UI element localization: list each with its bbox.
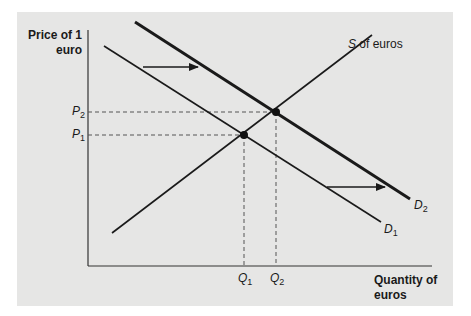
x-axis-label: Quantity of euros (374, 273, 437, 303)
supply-label-var: S (348, 37, 356, 51)
d1-sub: 1 (393, 228, 398, 238)
p1-var: P (72, 127, 80, 141)
quantity-label-q1: Q1 (238, 271, 252, 290)
q2-sub: 2 (279, 277, 284, 287)
y-axis-label: Price of 1 euro (32, 28, 82, 58)
y-axis-label-line2: euro (32, 43, 82, 58)
supply-label: S of euros (348, 37, 403, 52)
x-axis-label-line2: euros (374, 288, 437, 303)
x-axis-label-line1: Quantity of (374, 273, 437, 288)
y-axis-label-line1: Price of 1 (22, 28, 82, 43)
p1-sub: 1 (80, 133, 85, 143)
equilibrium-point-1 (240, 131, 248, 139)
p2-sub: 2 (80, 110, 85, 120)
q2-var: Q (270, 271, 279, 285)
q1-var: Q (238, 271, 247, 285)
d2-var: D (414, 198, 423, 212)
equilibrium-point-2 (272, 108, 280, 116)
price-label-p1: P1 (72, 127, 85, 146)
price-label-p2: P2 (72, 104, 85, 123)
d1-var: D (384, 222, 393, 236)
p2-var: P (72, 104, 80, 118)
demand-label-d2: D2 (414, 198, 428, 217)
quantity-label-q2: Q2 (270, 271, 284, 290)
supply-label-rest: of euros (356, 37, 403, 51)
d2-sub: 2 (423, 204, 428, 214)
q1-sub: 1 (247, 277, 252, 287)
demand-label-d1: D1 (384, 222, 398, 241)
